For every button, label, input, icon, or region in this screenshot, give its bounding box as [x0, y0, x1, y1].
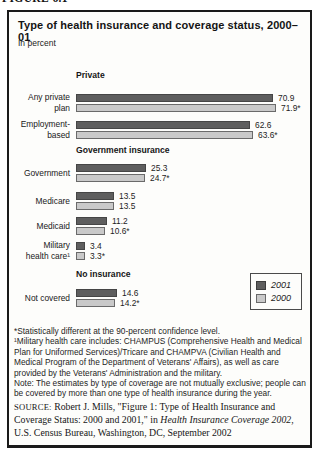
row-label-medicaid: Medicaid [4, 221, 70, 232]
source-citation: SOURCE: Robert J. Mills, "Figure 1: Type… [14, 401, 308, 440]
row-label-medicare: Medicare [4, 196, 70, 207]
legend: 2001 2000 [250, 273, 302, 310]
legend-item-2001: 2001 [256, 280, 301, 290]
bar-2001-government [76, 164, 146, 172]
legend-swatch-2001 [256, 281, 266, 290]
row-label-military-health-care: Militaryhealth care¹ [4, 240, 70, 262]
bar-2001-any-private-plan [76, 94, 273, 102]
bar-2001-not-covered [76, 289, 117, 297]
bar-2000-military-health-care [76, 252, 85, 260]
value-2000-military-health-care: 3.3* [90, 251, 105, 261]
section-heading-private: Private [76, 70, 105, 80]
footnote-military: ¹Military health care includes: CHAMPUS … [14, 336, 310, 378]
value-2001-medicaid: 11.2 [112, 216, 128, 226]
row-label-not-covered: Not covered [4, 293, 70, 304]
bar-2000-any-private-plan [76, 104, 276, 112]
value-2001-government: 25.3 [151, 163, 167, 173]
section-heading-government-insurance: Government insurance [76, 145, 170, 155]
bar-2000-employment-based [76, 131, 253, 139]
row-label-government: Government [4, 168, 70, 179]
footnotes: *Statistically different at the 90-perce… [14, 326, 310, 399]
legend-item-2000: 2000 [256, 293, 301, 303]
footnote-note: Note: The estimates by type of coverage … [14, 378, 310, 399]
legend-label-2001: 2001 [271, 280, 291, 290]
value-2001-not-covered: 14.6 [122, 288, 138, 298]
value-2000-medicare: 13.5 [119, 201, 135, 211]
bar-2001-military-health-care [76, 242, 85, 250]
row-label-employment-based: Employment-based [4, 119, 70, 141]
value-2000-not-covered: 14.2* [120, 298, 140, 308]
source-title-italic: Health Insurance Coverage 2002 [160, 414, 291, 425]
value-2001-military-health-care: 3.4 [90, 241, 102, 251]
bar-2000-medicare [76, 202, 114, 210]
value-2000-employment-based: 63.6* [258, 130, 278, 140]
bar-2000-not-covered [76, 299, 115, 307]
value-2001-employment-based: 62.6 [255, 120, 271, 130]
value-2001-any-private-plan: 70.9 [278, 93, 294, 103]
value-2000-any-private-plan: 71.9* [281, 103, 301, 113]
footnote-significance: *Statistically different at the 90-perce… [14, 326, 310, 336]
row-label-any-private-plan: Any privateplan [4, 92, 70, 114]
legend-label-2000: 2000 [271, 293, 291, 303]
value-2000-government: 24.7* [150, 173, 170, 183]
value-2001-medicare: 13.5 [119, 191, 135, 201]
source-label: SOURCE: [14, 402, 52, 412]
bar-2000-government [76, 174, 145, 182]
bar-2001-medicaid [76, 217, 107, 225]
section-heading-no-insurance: No insurance [76, 269, 130, 279]
legend-swatch-2000 [256, 294, 266, 303]
bar-2001-employment-based [76, 121, 250, 129]
bar-2000-medicaid [76, 227, 105, 235]
value-2000-medicaid: 10.6* [110, 226, 130, 236]
bar-2001-medicare [76, 192, 114, 200]
